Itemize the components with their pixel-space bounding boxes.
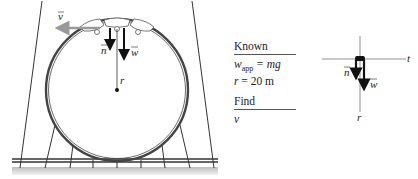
radius-label: r <box>120 74 125 86</box>
known-item-apparent-weight: wapp = mg <box>234 58 296 75</box>
fbd-radial-label: r <box>357 111 362 123</box>
fbd-tangential-label: t <box>407 52 411 64</box>
fbd-normal-label: n <box>344 66 350 78</box>
find-header: Find <box>234 95 296 110</box>
known-find-panel: Known wapp = mg r = 20 m Find v <box>234 40 296 126</box>
free-body-diagram: n w t r <box>322 36 411 123</box>
loop-diagram: v r n w n w t r <box>0 0 418 179</box>
fbd-weight-label: w <box>370 78 378 90</box>
known-header: Known <box>234 40 296 55</box>
loop-center-dot <box>115 88 119 92</box>
find-item-velocity: v <box>234 113 296 126</box>
weight-label: w <box>131 46 139 58</box>
normal-force-label: n <box>101 44 107 56</box>
ground <box>12 167 218 175</box>
known-item-radius: r = 20 m <box>234 75 296 88</box>
